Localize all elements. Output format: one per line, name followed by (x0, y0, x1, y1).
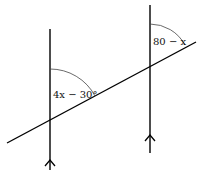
left-angle-label: 4x − 30° (53, 89, 97, 100)
transversal-line (7, 42, 196, 143)
parallel-lines-diagram: 4x − 30° 80 − x (0, 0, 203, 170)
right-angle-label: 80 − x (153, 36, 186, 47)
